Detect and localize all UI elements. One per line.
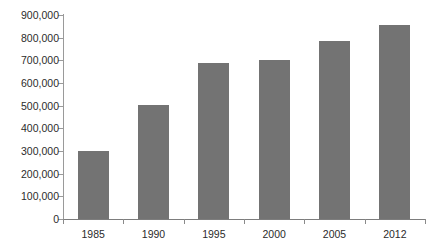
y-axis-tick-label: 400,000 xyxy=(3,123,59,134)
y-axis-tick-label: 600,000 xyxy=(3,78,59,89)
y-axis-tick-label: 100,000 xyxy=(3,191,59,202)
bar-1985[interactable] xyxy=(78,151,109,219)
x-axis-tick-mark xyxy=(304,219,305,224)
bar-2012[interactable] xyxy=(379,25,410,219)
y-axis-tick-label: 200,000 xyxy=(3,168,59,179)
y-axis: 0100,000200,000300,000400,000500,000600,… xyxy=(0,0,59,250)
x-axis-label-1995: 1995 xyxy=(202,229,225,240)
x-axis-label-1990: 1990 xyxy=(142,229,165,240)
y-axis-tick-label: 0 xyxy=(3,214,59,225)
x-axis-tick-mark xyxy=(184,219,185,224)
bar-2005[interactable] xyxy=(319,41,350,219)
bar-1995[interactable] xyxy=(198,63,229,219)
x-axis-label-2000: 2000 xyxy=(262,229,285,240)
y-axis-tick-label: 300,000 xyxy=(3,146,59,157)
y-axis-tick-label: 700,000 xyxy=(3,55,59,66)
bar-2000[interactable] xyxy=(259,60,290,219)
y-axis-tick-label: 500,000 xyxy=(3,100,59,111)
x-axis-label-1985: 1985 xyxy=(81,229,104,240)
x-axis-label-2005: 2005 xyxy=(323,229,346,240)
plot-area xyxy=(63,15,425,219)
bar-1990[interactable] xyxy=(138,105,169,219)
x-axis-label-2012: 2012 xyxy=(383,229,406,240)
x-axis-tick-mark xyxy=(425,219,426,224)
bar-chart: 0100,000200,000300,000400,000500,000600,… xyxy=(0,0,438,250)
x-axis-tick-mark xyxy=(365,219,366,224)
y-axis-tick-label: 900,000 xyxy=(3,10,59,21)
x-axis-tick-mark xyxy=(123,219,124,224)
x-axis-tick-mark xyxy=(244,219,245,224)
x-axis-tick-mark xyxy=(63,219,64,224)
y-axis-tick-label: 800,000 xyxy=(3,32,59,43)
